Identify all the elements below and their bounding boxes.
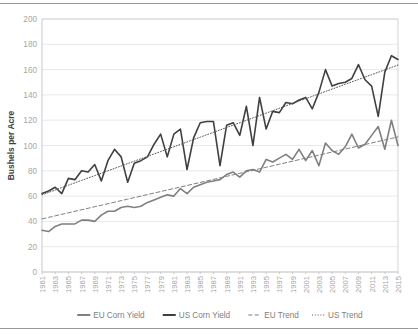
x-axis-tick: 1971 xyxy=(104,276,113,293)
x-axis-tick-label: 2007 xyxy=(341,276,350,293)
x-axis-tick: 1963 xyxy=(51,276,60,293)
series-line-us-trend xyxy=(42,65,398,195)
x-axis-tick-label: 1993 xyxy=(249,276,258,293)
x-axis-tick-label: 1991 xyxy=(236,276,245,293)
y-axis-tick-label: 180 xyxy=(23,40,37,49)
y-axis-tick-label: 120 xyxy=(23,116,37,125)
y-axis-tick-label: 140 xyxy=(23,91,37,100)
x-axis-tick-label: 1963 xyxy=(51,276,60,293)
y-axis-tick-label: 200 xyxy=(23,15,37,24)
series-line-eu-trend xyxy=(42,137,398,219)
x-axis-tick-label: 2009 xyxy=(354,276,363,293)
x-axis-tick-label: 2005 xyxy=(328,276,337,293)
y-axis-tick-label: 0 xyxy=(32,268,37,277)
y-axis-title-group: Bushels per Acre xyxy=(6,110,16,180)
x-axis-tick: 2003 xyxy=(315,276,324,293)
x-axis-tick-label: 1981 xyxy=(170,276,179,293)
x-axis-tick: 1969 xyxy=(91,276,100,293)
x-axis-tick-label: 1989 xyxy=(223,276,232,293)
legend-label: US Trend xyxy=(328,311,363,320)
x-axis-tick-label: 1971 xyxy=(104,276,113,293)
legend-label: EU Trend xyxy=(264,311,299,320)
x-axis-tick: 1961 xyxy=(38,276,47,293)
y-axis-tick-label: 20 xyxy=(28,243,38,252)
legend-item[interactable]: EU Corn Yield xyxy=(77,311,145,320)
x-axis-tick: 1987 xyxy=(209,276,218,293)
x-axis-tick-label: 1977 xyxy=(143,276,152,293)
y-axis-title: Bushels per Acre xyxy=(6,110,16,180)
x-axis-tick: 2011 xyxy=(368,276,377,292)
x-axis-tick-label: 1979 xyxy=(157,276,166,293)
legend-label: EU Corn Yield xyxy=(93,311,145,320)
x-axis-tick-label: 1985 xyxy=(196,276,205,293)
x-axis-tick: 2015 xyxy=(394,276,403,293)
x-axis-tick-label: 1997 xyxy=(275,276,284,293)
x-axis-tick-label: 1967 xyxy=(78,276,87,293)
legend-item[interactable]: US Trend xyxy=(312,311,363,320)
x-axis-tick-label: 1983 xyxy=(183,276,192,293)
x-axis-tick-label: 1973 xyxy=(117,276,126,293)
x-axis-tick: 1977 xyxy=(143,276,152,293)
y-axis-tick-label: 160 xyxy=(23,66,37,75)
legend-item[interactable]: EU Trend xyxy=(248,311,299,320)
y-axis-tick-label: 100 xyxy=(23,142,37,151)
chart-canvas: 0204060801001201401601802001961196319651… xyxy=(0,0,418,334)
x-axis-tick: 2005 xyxy=(328,276,337,293)
legend-label: US Corn Yield xyxy=(179,311,231,320)
x-axis-tick: 1981 xyxy=(170,276,179,293)
x-axis-tick: 1993 xyxy=(249,276,258,293)
x-axis-tick-label: 1969 xyxy=(91,276,100,293)
x-axis-tick: 1999 xyxy=(289,276,298,293)
x-axis-tick-label: 1975 xyxy=(130,276,139,293)
y-axis-tick-label: 40 xyxy=(28,217,38,226)
x-axis-tick-label: 1995 xyxy=(262,276,271,293)
x-axis-tick-label: 1987 xyxy=(209,276,218,293)
x-axis-tick: 1995 xyxy=(262,276,271,293)
x-axis-tick: 1991 xyxy=(236,276,245,293)
corn-yield-line-chart: 0204060801001201401601802001961196319651… xyxy=(0,0,418,334)
x-axis-tick: 2007 xyxy=(341,276,350,293)
x-axis-tick: 2009 xyxy=(354,276,363,293)
y-axis-tick-label: 60 xyxy=(28,192,38,201)
x-axis-tick-label: 2003 xyxy=(315,276,324,293)
x-axis-tick-label: 2011 xyxy=(368,276,377,292)
x-axis-tick: 1967 xyxy=(78,276,87,293)
x-axis-tick-label: 2015 xyxy=(394,276,403,293)
x-axis-tick-label: 1965 xyxy=(64,276,73,293)
x-axis-tick: 1989 xyxy=(223,276,232,293)
x-axis-tick: 1973 xyxy=(117,276,126,293)
x-axis-tick: 2001 xyxy=(302,276,311,293)
legend-item[interactable]: US Corn Yield xyxy=(163,311,231,320)
x-axis-tick: 1979 xyxy=(157,276,166,293)
x-axis-tick-label: 1961 xyxy=(38,276,47,293)
x-axis-tick-label: 2013 xyxy=(381,276,390,293)
x-axis-tick: 1983 xyxy=(183,276,192,293)
x-axis-tick: 1975 xyxy=(130,276,139,293)
x-axis-tick: 1997 xyxy=(275,276,284,293)
series-line-us-corn-yield xyxy=(42,56,398,194)
y-axis-tick-label: 80 xyxy=(28,167,38,176)
x-axis-tick-label: 2001 xyxy=(302,276,311,293)
x-axis-tick: 1965 xyxy=(64,276,73,293)
x-axis-tick: 2013 xyxy=(381,276,390,293)
x-axis-tick: 1985 xyxy=(196,276,205,293)
x-axis-tick-label: 1999 xyxy=(289,276,298,293)
